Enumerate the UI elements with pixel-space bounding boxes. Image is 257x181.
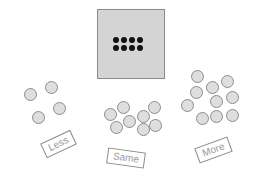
counter-circle xyxy=(149,119,162,132)
reference-dot xyxy=(121,37,127,43)
counter-circle xyxy=(117,101,130,114)
counter-circle xyxy=(226,91,239,104)
counter-circle xyxy=(221,75,234,88)
counter-circle xyxy=(226,109,239,122)
counter-circle xyxy=(196,112,209,125)
reference-dot xyxy=(113,37,119,43)
counter-circle xyxy=(210,110,223,123)
reference-dot xyxy=(129,37,135,43)
reference-dot xyxy=(113,45,119,51)
reference-dot xyxy=(137,37,143,43)
counter-circle xyxy=(45,81,58,94)
counter-circle xyxy=(206,81,219,94)
counter-circle xyxy=(148,101,161,114)
label-card-more: More xyxy=(194,137,232,164)
counter-circle xyxy=(32,111,45,124)
reference-dot xyxy=(137,45,143,51)
counter-circle xyxy=(181,99,194,112)
counter-circle xyxy=(190,86,203,99)
label-card-same: Same xyxy=(106,147,146,168)
label-card-less: Less xyxy=(40,130,77,159)
counter-circle xyxy=(24,88,37,101)
counter-circle xyxy=(53,102,66,115)
counter-circle xyxy=(191,70,204,83)
counter-circle xyxy=(137,110,150,123)
counter-circle xyxy=(110,121,123,134)
counter-circle xyxy=(210,95,223,108)
counter-circle xyxy=(104,108,117,121)
reference-box xyxy=(97,9,165,79)
counter-circle xyxy=(123,115,136,128)
reference-dot xyxy=(129,45,135,51)
reference-dot xyxy=(121,45,127,51)
